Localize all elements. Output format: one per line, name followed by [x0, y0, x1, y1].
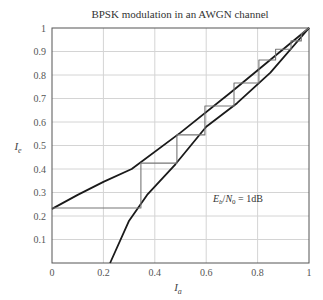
x-tick-label: 0.2: [97, 267, 110, 278]
y-tick-label: 0.5: [34, 140, 47, 151]
exit-chart: BPSK modulation in an AWGN channel 00.20…: [0, 0, 323, 300]
y-tick-label: 0.3: [34, 187, 47, 198]
y-tick-label: 0.6: [34, 117, 47, 128]
x-axis-ticks: 00.20.40.60.81: [50, 267, 312, 278]
x-axis-label: Ia: [173, 281, 182, 296]
x-tick-label: 0: [50, 267, 55, 278]
y-tick-label: 0.7: [34, 93, 47, 104]
x-tick-label: 1: [307, 267, 312, 278]
y-tick-label: 0.8: [34, 70, 47, 81]
decoder1-curve: [52, 28, 309, 209]
y-tick-label: 1: [41, 23, 46, 34]
y-tick-label: 0.1: [34, 234, 47, 245]
snr-annotation: Eb/N0 = 1dB: [212, 193, 263, 206]
x-tick-label: 0.4: [149, 267, 162, 278]
trajectory-staircase: [52, 28, 309, 208]
x-tick-label: 0.8: [251, 267, 264, 278]
y-tick-label: 0.2: [34, 211, 47, 222]
y-axis-ticks: 0.10.20.30.40.50.60.70.80.91: [34, 23, 47, 246]
y-axis-label: Ie: [13, 140, 22, 155]
y-tick-label: 0.9: [34, 46, 47, 57]
y-tick-label: 0.4: [34, 164, 47, 175]
grid-lines: [52, 28, 309, 263]
x-tick-label: 0.6: [200, 267, 213, 278]
chart-title: BPSK modulation in an AWGN channel: [91, 8, 268, 20]
